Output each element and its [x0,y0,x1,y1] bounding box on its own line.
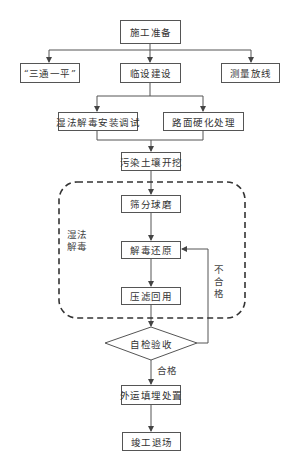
node-landfill: 外运填埋处置 [121,385,181,405]
node-filter-reuse: 压滤回用 [121,287,181,305]
flowchart: 施工准备 “三通一平” 临设建设 测量放线 湿法解毒安装调试 路面硬化处理 污染… [0,0,299,476]
node-excavation: 污染土壤开挖 [121,152,181,171]
node-start: 施工准备 [120,20,181,44]
node-finish: 竣工退场 [122,432,181,451]
edge-label-fail: 不合格 [213,264,224,300]
node-survey: 测量放线 [221,63,280,83]
node-self-check: 自检验收 [105,337,197,351]
node-wet-install: 湿法解毒安装调试 [58,112,138,131]
node-three-one: “三通一平” [20,63,80,83]
node-detox: 解毒还原 [121,241,181,259]
edge-label-pass: 合格 [157,365,177,377]
group-label-wet-detox: 湿法解毒 [66,229,88,253]
node-screening: 筛分球磨 [121,195,181,213]
node-road-harden: 路面硬化处理 [163,112,244,131]
node-temp-facilities: 临设建设 [120,63,181,83]
